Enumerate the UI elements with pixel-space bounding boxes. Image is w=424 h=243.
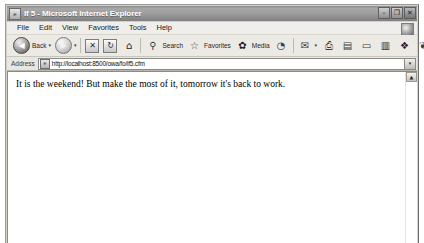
media-button[interactable]: ✿ Media [233,36,272,55]
search-label: Search [162,42,183,49]
research-icon: ▥ [378,39,393,53]
discuss-button[interactable]: ▭ [357,36,376,55]
maximize-button[interactable]: ❐ [391,7,403,19]
printer-icon: ⎙ [321,39,336,53]
discuss-icon: ▭ [359,39,374,53]
close-button[interactable]: ✕ [404,7,416,19]
menu-tools[interactable]: Tools [124,22,152,34]
stop-icon: ✕ [85,39,99,53]
menu-view[interactable]: View [57,22,83,34]
history-icon: ◔ [274,39,289,53]
page-content: It is the weekend! But make the most of … [8,72,405,243]
back-caret-icon[interactable]: ▾ [48,43,51,48]
back-arrow-icon: ◀ [13,37,30,54]
address-dropdown-button[interactable]: ▾ [404,58,416,70]
media-icon: ✿ [235,39,250,53]
window-title: If 5 - Microsoft Internet Explorer [24,9,142,18]
browser-window: e If 5 - Microsoft Internet Explorer – ❐… [5,4,419,243]
address-label: Address [11,60,35,67]
stop-button[interactable]: ✕ [83,36,101,55]
home-button[interactable]: ⌂ [119,36,138,55]
back-button[interactable]: ◀ Back ▾ [11,36,53,55]
refresh-icon: ↻ [103,39,117,53]
extra-icon: ❦ [416,39,424,53]
messenger-icon: ❖ [397,39,412,53]
scroll-up-button[interactable]: ▲ [406,72,417,82]
content-viewport: It is the weekend! But make the most of … [7,71,417,243]
toolbar-separator [140,38,141,53]
toolbar-separator [293,38,294,53]
menu-edit[interactable]: Edit [34,22,57,34]
title-bar[interactable]: e If 5 - Microsoft Internet Explorer – ❐… [7,6,417,21]
refresh-button[interactable]: ↻ [101,36,119,55]
toolbar: ◀ Back ▾ ▶ ▾ ✕ ↻ ⌂ ⚲ Search ☆ Favorites … [7,35,417,57]
history-button[interactable]: ◔ [272,36,291,55]
star-icon: ☆ [187,39,202,53]
vertical-scrollbar[interactable]: ▲ ▼ [405,72,417,243]
media-label: Media [252,42,270,49]
print-button[interactable]: ⎙ [319,36,338,55]
messenger-button[interactable]: ❖ [395,36,414,55]
menu-bar: File Edit View Favorites Tools Help [7,22,417,35]
home-icon: ⌂ [121,39,136,53]
ie-page-icon: e [9,8,21,20]
research-button[interactable]: ▥ [376,36,395,55]
favorites-label: Favorites [204,42,231,49]
toolbar-separator [80,38,81,53]
address-url-text: http://localhost:8500/owa/fo/if5.cfm [52,60,145,67]
menu-file[interactable]: File [12,22,34,34]
forward-button[interactable]: ▶ ▾ [53,36,79,55]
page-body-text: It is the weekend! But make the most of … [16,78,397,90]
window-controls: – ❐ ✕ [378,7,416,19]
back-label: Back [32,42,46,49]
minimize-button[interactable]: – [378,7,390,19]
scroll-track[interactable] [406,82,417,243]
edit-page-icon: ▤ [340,39,355,53]
forward-caret-icon[interactable]: ▾ [74,43,77,48]
extra-toolbar-button[interactable]: ❦ [414,36,424,55]
forward-arrow-icon: ▶ [55,37,72,54]
address-input[interactable]: e http://localhost:8500/owa/fo/if5.cfm [38,58,404,70]
edit-button[interactable]: ▤ [338,36,357,55]
search-button[interactable]: ⚲ Search [143,36,185,55]
page-icon: e [40,59,50,69]
mail-caret-icon[interactable]: ▾ [315,43,318,48]
menu-help[interactable]: Help [152,22,177,34]
search-icon: ⚲ [145,39,160,53]
mail-icon: ✉ [298,39,313,53]
favorites-button[interactable]: ☆ Favorites [185,36,233,55]
menu-favorites[interactable]: Favorites [83,22,124,34]
mail-button[interactable]: ✉ ▾ [296,36,320,55]
address-bar: Address e http://localhost:8500/owa/fo/i… [7,57,417,71]
